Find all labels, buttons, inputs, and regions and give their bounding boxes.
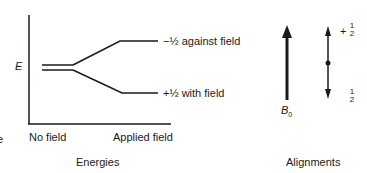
b0-arrow-head xyxy=(282,25,292,38)
alignments-caption: Alignments xyxy=(286,156,340,168)
x-label-no-field: No field xyxy=(29,131,66,143)
level-lower-split xyxy=(73,70,158,93)
b0-label: B0 xyxy=(281,104,292,118)
spin-up-sign: + xyxy=(340,25,346,37)
level-upper-split xyxy=(73,41,158,65)
energies-caption: Energies xyxy=(76,156,119,168)
upper-level-label: −½ against field xyxy=(163,35,240,47)
edge-fragment-text: e xyxy=(0,133,3,145)
energy-axis-label: E xyxy=(15,60,22,72)
spin-arrow-up-head xyxy=(325,26,331,36)
spin-arrow-down-head xyxy=(325,89,331,99)
x-label-applied-field: Applied field xyxy=(113,131,173,143)
spin-down-fraction: 1 2 xyxy=(349,88,355,104)
lower-level-label: +½ with field xyxy=(163,87,224,99)
spin-center-dot xyxy=(326,61,331,66)
spin-up-fraction: 1 2 xyxy=(349,22,355,38)
